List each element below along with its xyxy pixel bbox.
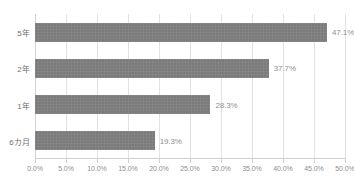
horizontal-bar-chart: 47.1%37.7%28.3%19.3% 0.0%5.0%10.0%15.0%2…: [0, 0, 354, 179]
x-axis-tick: [35, 159, 36, 163]
bar-row: 37.7%: [35, 59, 345, 78]
x-axis-tick: [97, 159, 98, 163]
x-axis-tick: [128, 159, 129, 163]
x-axis-tick-label: 50.0%: [335, 165, 354, 172]
x-axis-tick-label: 30.0%: [211, 165, 230, 172]
x-axis-tick-label: 45.0%: [304, 165, 323, 172]
x-axis-tick-label: 5.0%: [58, 165, 74, 172]
x-axis-tick: [314, 159, 315, 163]
x-axis-tick-label: 25.0%: [180, 165, 199, 172]
x-axis-tick-label: 20.0%: [149, 165, 168, 172]
category-label: 2年: [17, 63, 30, 74]
x-axis-tick-label: 0.0%: [27, 165, 43, 172]
category-label: 1年: [17, 100, 30, 111]
x-axis-tick: [283, 159, 284, 163]
category-label: 5年: [17, 27, 30, 38]
bar[interactable]: [35, 23, 327, 42]
x-axis-tick: [159, 159, 160, 163]
bar-value-label: 37.7%: [274, 64, 296, 73]
x-axis-tick: [252, 159, 253, 163]
x-axis-tick: [221, 159, 222, 163]
bar[interactable]: [35, 59, 269, 78]
plot-area: 47.1%37.7%28.3%19.3%: [35, 14, 345, 159]
bar-row: 28.3%: [35, 95, 345, 114]
bar-value-label: 19.3%: [160, 136, 182, 145]
bar-row: 47.1%: [35, 23, 345, 42]
x-axis-tick-label: 40.0%: [273, 165, 292, 172]
x-axis-tick: [190, 159, 191, 163]
bar-value-label: 28.3%: [215, 100, 237, 109]
bar[interactable]: [35, 131, 155, 150]
x-axis-tick: [345, 159, 346, 163]
x-axis-tick-label: 35.0%: [242, 165, 261, 172]
x-axis-tick-label: 15.0%: [118, 165, 137, 172]
bar-row: 19.3%: [35, 131, 345, 150]
bar[interactable]: [35, 95, 210, 114]
x-axis-tick: [66, 159, 67, 163]
x-axis-tick-label: 10.0%: [87, 165, 106, 172]
bar-value-label: 47.1%: [332, 28, 354, 37]
category-label: 6カ月: [9, 136, 30, 147]
